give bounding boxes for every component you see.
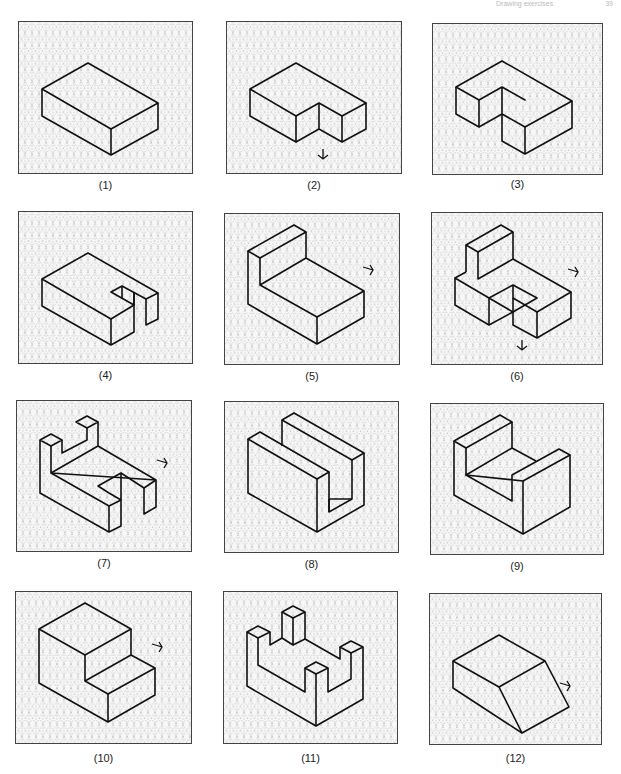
isometric-drawing: [16, 400, 192, 552]
isometric-drawing: [224, 213, 400, 365]
isometric-drawing: [15, 591, 192, 744]
figure-label: (5): [224, 370, 400, 382]
figure-label: (9): [430, 560, 604, 572]
figure-12: [429, 593, 602, 745]
figure-7: [16, 400, 192, 552]
isometric-drawing: [432, 23, 603, 175]
figure-label: (10): [15, 752, 192, 764]
figure-8: [224, 401, 399, 553]
figure-3: [432, 23, 603, 175]
page-header: Drawing exercises 39: [496, 0, 613, 7]
figure-2: [226, 21, 402, 174]
figure-label: (3): [432, 178, 603, 190]
isometric-drawing: [18, 211, 193, 364]
isometric-drawing: [226, 21, 402, 174]
header-title: Drawing exercises: [496, 0, 553, 7]
figure-11: [223, 591, 398, 744]
isometric-drawing: [18, 21, 193, 174]
figure-10: [15, 591, 192, 744]
isometric-drawing: [223, 591, 398, 744]
figure-label: (11): [223, 752, 398, 764]
figure-5: [224, 213, 400, 365]
figure-label: (8): [224, 558, 399, 570]
figure-label: (4): [18, 369, 193, 381]
figure-6: [431, 212, 603, 365]
figure-label: (6): [431, 370, 603, 382]
figure-label: (2): [226, 179, 402, 191]
figure-label: (1): [18, 179, 193, 191]
figure-4: [18, 211, 193, 364]
isometric-drawing: [224, 401, 399, 553]
isometric-drawing: [429, 593, 602, 745]
isometric-drawing: [431, 212, 603, 365]
page-number: 39: [605, 0, 613, 7]
isometric-drawing: [430, 403, 604, 555]
figure-9: [430, 403, 604, 555]
figure-1: [18, 21, 193, 174]
figure-label: (7): [16, 557, 192, 569]
figure-label: (12): [429, 752, 602, 764]
